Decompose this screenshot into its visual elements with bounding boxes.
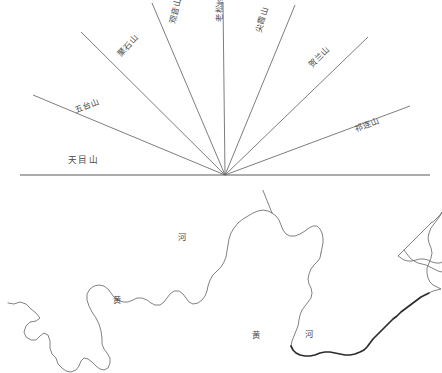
ray-label-1: 聚石山 xyxy=(115,32,140,58)
ray-label-3: 老松岭 xyxy=(214,0,225,22)
river-label-0: 河 xyxy=(178,232,187,242)
yellow-river-panel: 河黄黄河 xyxy=(0,190,442,373)
river-segment-ordos-loop-north xyxy=(272,213,323,253)
fan-rays-group xyxy=(33,2,410,175)
ray-label-4: 尖霞山 xyxy=(253,6,270,34)
river-segment-shanxi-gorge-west-bank xyxy=(261,190,307,213)
fan-ray-6 xyxy=(225,106,410,175)
fan-ray-1 xyxy=(81,32,225,175)
river-segment-lower-southern-bend xyxy=(291,293,429,356)
ray-label-tianmushan: 天目山 xyxy=(68,155,99,165)
river-labels-group: 河黄黄河 xyxy=(113,232,314,340)
river-label-3: 河 xyxy=(305,329,314,339)
river-label-2: 黄 xyxy=(252,330,260,340)
fan-ray-3 xyxy=(223,2,225,175)
river-segment-upper-source-western xyxy=(8,210,272,372)
yellow-river-svg: 河黄黄河 xyxy=(0,190,442,373)
ray-label-0: 五台山 xyxy=(73,96,101,115)
river-label-1: 黄 xyxy=(113,295,121,305)
mountain-fan-svg: 天目山五台山聚石山观音山老松岭尖霞山贺兰山祁连山 xyxy=(0,0,442,190)
river-segment-estuary-branch-upper xyxy=(398,223,442,263)
fan-ray-5 xyxy=(225,37,368,175)
river-paths-group xyxy=(8,190,442,372)
ray-label-2: 观音山 xyxy=(167,0,183,24)
ray-label-6: 祁连山 xyxy=(353,115,381,134)
mountain-fan-panel: 天目山五台山聚石山观音山老松岭尖霞山贺兰山祁连山 xyxy=(0,0,442,190)
figure-root: 天目山五台山聚石山观音山老松岭尖霞山贺兰山祁连山 河黄黄河 xyxy=(0,0,442,373)
ray-label-5: 贺兰山 xyxy=(306,44,331,69)
